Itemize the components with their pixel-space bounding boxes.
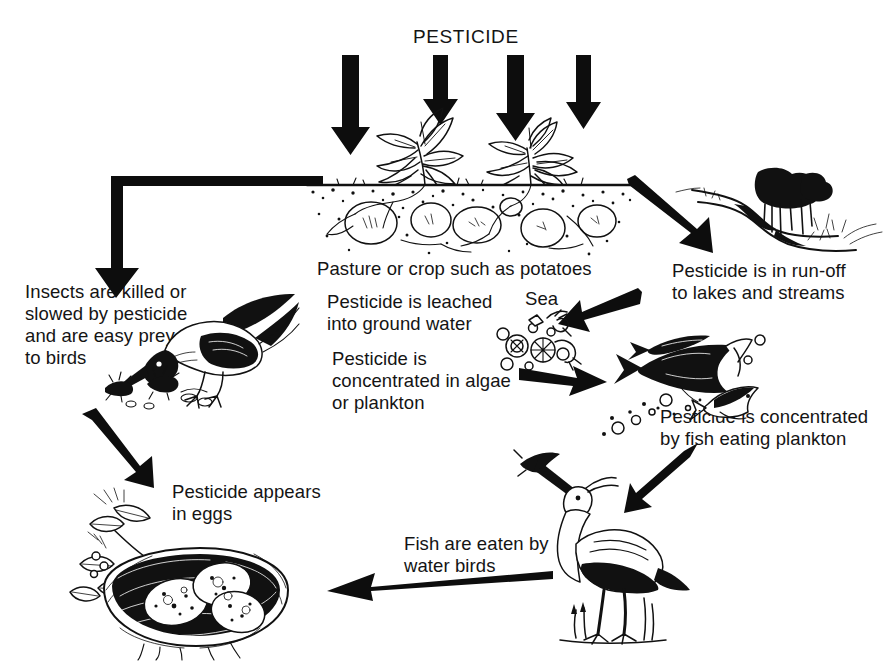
heron-with-fish-illustration xyxy=(520,448,700,646)
tree-cluster xyxy=(755,168,833,209)
fish-school-illustration xyxy=(600,326,800,436)
label-leached: Pesticide is leached into ground water xyxy=(327,291,493,335)
diagram-canvas: PESTICIDE Pasture or crop such as potato… xyxy=(0,0,895,664)
nest-with-eggs-illustration xyxy=(60,500,310,660)
heron-to-nest-arrow xyxy=(327,567,553,601)
potato-plant-left xyxy=(377,108,463,185)
label-runoff: Pesticide is in run-off to lakes and str… xyxy=(672,260,846,304)
field-to-insects-arrow xyxy=(95,176,325,301)
potato-crop-field-illustration xyxy=(305,88,635,258)
potato-plant-right xyxy=(487,118,577,185)
reeds xyxy=(560,598,666,643)
stream-landscape-illustration xyxy=(668,168,888,260)
label-pasture: Pasture or crop such as potatoes xyxy=(317,258,592,280)
bird xyxy=(121,294,299,408)
bird-eating-insects-illustration xyxy=(105,288,300,418)
label-pesticide: PESTICIDE xyxy=(413,26,519,48)
algae-to-fish-arrow xyxy=(519,364,609,400)
insects-to-nest-arrow xyxy=(82,408,162,490)
